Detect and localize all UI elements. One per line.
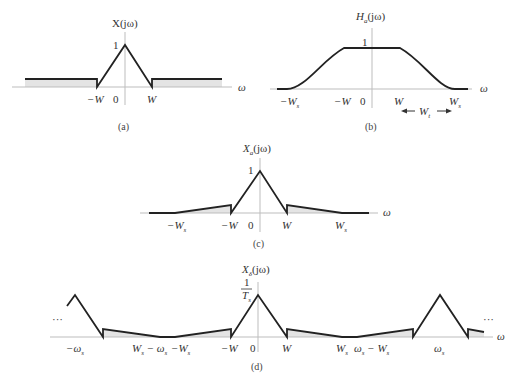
tick-zero: 0 bbox=[250, 342, 256, 354]
tick-w: W bbox=[282, 219, 292, 231]
shaded-tail-left bbox=[25, 79, 97, 87]
ellipsis-right: ··· bbox=[483, 313, 494, 325]
x-axis-label: ω bbox=[238, 81, 246, 93]
tick-ws: Ws bbox=[336, 342, 348, 357]
panel-c: Xa(jω) 1 ω −Ws −W 0 W Ws (c) bbox=[140, 142, 391, 250]
peak-label-fraction: 1 Ts bbox=[241, 276, 252, 304]
shaded-region-left bbox=[103, 329, 231, 337]
tick-neg-ws: −Ws bbox=[171, 342, 191, 357]
tick-w: W bbox=[282, 342, 292, 354]
tick-neg-ws: −Ws bbox=[280, 95, 300, 110]
tick-neg-omega-s: −ωs bbox=[66, 342, 84, 357]
tick-w: W bbox=[394, 95, 404, 107]
tick-zero: 0 bbox=[360, 95, 366, 107]
svg-text:1: 1 bbox=[244, 276, 250, 288]
tick-omega-s-minus-ws: ωs − Ws bbox=[354, 342, 390, 357]
tick-zero: 0 bbox=[248, 219, 254, 231]
tick-neg-w: −W bbox=[87, 93, 104, 105]
filtered-spectrum-curve bbox=[149, 171, 369, 213]
tick-w: W bbox=[147, 93, 157, 105]
tick-neg-w: −W bbox=[221, 219, 238, 231]
caption-a: (a) bbox=[118, 121, 129, 133]
x-axis-label: ω bbox=[480, 82, 488, 94]
tick-ws: Ws bbox=[449, 95, 461, 110]
tick-neg-w: −W bbox=[334, 95, 351, 107]
tick-neg-ws: −Ws bbox=[167, 219, 187, 234]
shaded-tail-right bbox=[152, 79, 222, 87]
sampling-diagram: X(jω) 1 ω −W 0 W (a) Ha(jω) 1 ω −Ws −W 0… bbox=[0, 0, 510, 383]
caption-c: (c) bbox=[253, 238, 264, 250]
panel-a: X(jω) 1 ω −W 0 W (a) bbox=[12, 17, 246, 133]
y-axis-label: X(jω) bbox=[112, 17, 138, 30]
peak-label: 1 bbox=[113, 39, 119, 51]
tick-ws-minus-omega-s: Ws − ωs bbox=[132, 342, 168, 357]
transition-width-arrow: Wt bbox=[401, 105, 452, 120]
svg-text:Ts: Ts bbox=[242, 289, 251, 304]
x-axis-label: ω bbox=[497, 330, 505, 342]
sampled-spectrum-curve bbox=[67, 295, 484, 337]
panel-d: Xδ(jω) 1 Ts ··· ··· ω −ωs Ws − ωs −Ws −W… bbox=[50, 263, 505, 373]
caption-d: (d) bbox=[251, 361, 263, 373]
peak-label: 1 bbox=[248, 164, 254, 176]
panel-b: Ha(jω) 1 ω −Ws −W 0 W Ws Wt (b) bbox=[270, 10, 488, 133]
transition-width-label: Wt bbox=[419, 105, 431, 120]
y-axis-label: Ha(jω) bbox=[355, 10, 385, 25]
tick-zero: 0 bbox=[113, 93, 119, 105]
y-axis-label: Xa(jω) bbox=[242, 142, 271, 157]
tick-omega-s: ωs bbox=[434, 342, 445, 357]
ellipsis-left: ··· bbox=[52, 313, 63, 325]
tick-neg-w: −W bbox=[221, 342, 238, 354]
tick-ws: Ws bbox=[335, 219, 347, 234]
caption-b: (b) bbox=[365, 121, 377, 133]
shaded-region-right bbox=[287, 329, 413, 337]
peak-label: 1 bbox=[362, 36, 368, 48]
x-axis-label: ω bbox=[383, 206, 391, 218]
